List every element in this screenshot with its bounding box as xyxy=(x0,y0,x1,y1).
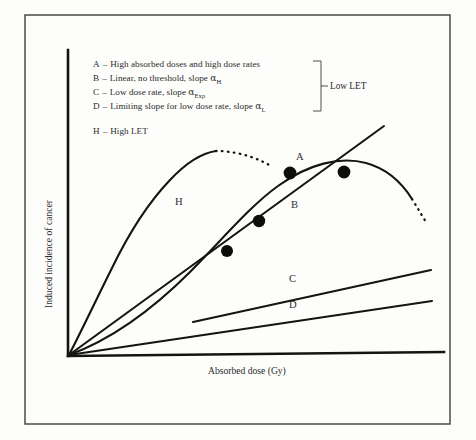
legend-desc-h: High LET xyxy=(110,126,148,136)
figure-frame xyxy=(25,15,450,424)
curve-a-dotted-tail xyxy=(412,199,426,222)
legend-dash-b: – xyxy=(101,73,107,83)
curve-h-dotted-tail xyxy=(216,151,271,166)
curve-a-line xyxy=(69,161,412,355)
legend-key-h: H xyxy=(93,126,100,136)
legend-key-d: D xyxy=(93,101,100,111)
curve-label-c: C xyxy=(289,273,296,284)
y-axis-label: Induced incidence of cancer xyxy=(43,199,54,308)
data-points-group xyxy=(221,166,350,257)
figure-container: A B C D H Absorbed dose (Gy) Induced inc… xyxy=(0,0,476,440)
legend-dash-c: – xyxy=(101,87,107,97)
curve-c-line xyxy=(193,270,431,322)
low-let-label: Low LET xyxy=(330,81,367,91)
curve-label-a: A xyxy=(296,151,304,162)
curve-label-b: B xyxy=(291,199,298,210)
legend-dash-h: – xyxy=(102,126,108,136)
legend-subscript-b: H xyxy=(216,78,221,85)
data-point xyxy=(253,215,265,227)
legend-entry-a: A–High absorbed doses and high dose rate… xyxy=(93,59,261,69)
dose-response-figure: A B C D H Absorbed dose (Gy) Induced inc… xyxy=(0,0,476,440)
legend-desc-d: Limiting slope for low dose rate, slope xyxy=(110,101,255,111)
legend-entry-c: C–Low dose rate, slope αExp xyxy=(93,87,206,99)
low-let-bracket xyxy=(313,61,321,111)
data-point xyxy=(338,166,351,179)
legend-dash-d: – xyxy=(102,101,108,111)
legend-key-a: A xyxy=(93,59,100,69)
x-axis-label: Absorbed dose (Gy) xyxy=(208,365,286,377)
legend-key-c: C xyxy=(93,87,99,97)
data-point xyxy=(221,245,233,257)
curve-label-d: D xyxy=(289,299,297,310)
legend-key-b: B xyxy=(93,73,99,83)
legend-subscript-c: Exp xyxy=(195,92,206,99)
legend-desc-a: High absorbed doses and high dose rates xyxy=(110,59,260,69)
data-point xyxy=(284,167,297,180)
legend-entry-b: B–Linear, no threshold, slope αH xyxy=(93,73,221,85)
legend-subscript-d: L xyxy=(261,106,265,113)
x-axis xyxy=(68,352,444,356)
legend-entry-d: D–Limiting slope for low dose rate, slop… xyxy=(93,101,265,113)
curve-h-line xyxy=(69,151,216,355)
legend-dash-a: – xyxy=(102,59,108,69)
legend-desc-b: Linear, no threshold, slope xyxy=(110,73,211,83)
curve-label-h: H xyxy=(175,196,183,207)
legend-entry-h: H–High LET xyxy=(93,126,148,136)
legend-desc-c: Low dose rate, slope xyxy=(110,87,189,97)
legend-group: A–High absorbed doses and high dose rate… xyxy=(93,59,367,136)
